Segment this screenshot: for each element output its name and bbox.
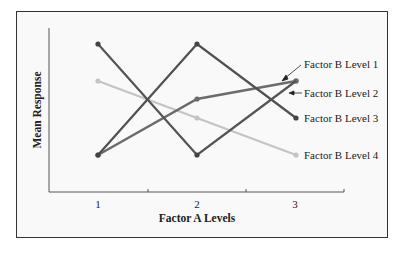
x-tick-label-2: 2 — [194, 198, 200, 210]
legend-level-4: Factor B Level 4 — [304, 149, 379, 161]
interaction-plot: 1 2 3 Factor A Levels Mean Response Fact… — [0, 0, 405, 253]
legend-level-3: Factor B Level 3 — [304, 112, 379, 124]
arrow-level-1 — [282, 65, 301, 81]
x-axis-title: Factor A Levels — [159, 212, 236, 224]
x-tick-label-3: 3 — [292, 198, 298, 210]
series-level-4 — [95, 78, 298, 157]
arrow-level-2 — [289, 91, 302, 95]
legend-level-2: Factor B Level 2 — [304, 87, 378, 99]
y-axis-title: Mean Response — [31, 72, 44, 149]
legend-level-1: Factor B Level 1 — [304, 58, 378, 70]
x-tick-label-1: 1 — [95, 198, 101, 210]
